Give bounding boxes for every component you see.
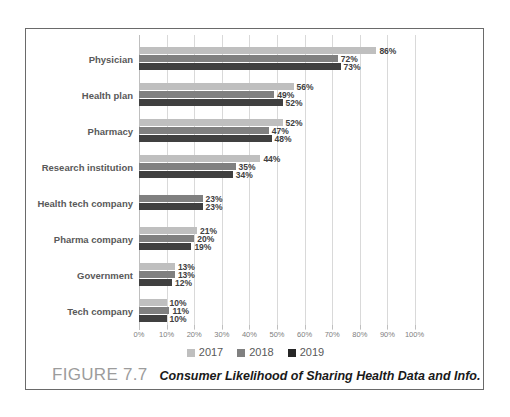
x-tick-label-0: 0% — [134, 330, 145, 339]
bar-row-tech-company-2019: 10% — [139, 315, 415, 322]
category-label-pharma-company: Pharma company — [54, 235, 133, 245]
bar-group-health-plan: 56% 49% 52% — [139, 83, 415, 107]
bar-physician-2018 — [139, 55, 338, 62]
bar-pharma-2019 — [139, 243, 191, 250]
legend-label-2019: 2019 — [300, 347, 324, 358]
bar-tech-company-2017 — [139, 299, 167, 306]
figure-number: FIGURE 7.7 — [52, 365, 148, 385]
bar-health-plan-2018 — [139, 91, 274, 98]
bar-group-pharma-company: 21% 20% 19% — [139, 227, 415, 251]
bar-row-pharma-2018: 20% — [139, 235, 415, 242]
bar-row-health-plan-2018: 49% — [139, 91, 415, 98]
bar-row-health-tech-2018: 23% — [139, 195, 415, 202]
bar-pharmacy-2019 — [139, 135, 272, 142]
bar-row-research-2018: 35% — [139, 163, 415, 170]
x-tick-label-50: 50% — [269, 330, 284, 339]
bar-row-pharma-2019: 19% — [139, 243, 415, 250]
bar-row-health-tech-2019: 23% — [139, 203, 415, 210]
category-label-physician: Physician — [89, 55, 133, 65]
category-label-government: Government — [77, 271, 133, 281]
category-label-research-institution: Research institution — [42, 163, 133, 173]
x-tick-label-60: 60% — [297, 330, 312, 339]
legend-label-2017: 2017 — [199, 347, 223, 358]
bar-group-pharmacy: 52% 47% 48% — [139, 119, 415, 143]
bar-tech-company-2018 — [139, 307, 169, 314]
x-tick-label-100: 100% — [405, 330, 424, 339]
bar-value-health-plan-2019: 52% — [283, 98, 303, 107]
bar-value-physician-2019: 73% — [341, 62, 361, 71]
x-tick-label-70: 70% — [325, 330, 340, 339]
figure-frame: Physician Health plan Pharmacy Research … — [25, 28, 484, 390]
legend-item-2017[interactable]: 2017 — [187, 347, 223, 358]
x-tick-label-20: 20% — [187, 330, 202, 339]
x-tick-label-40: 40% — [242, 330, 257, 339]
bar-health-tech-2018 — [139, 195, 203, 202]
bar-row-pharma-2017: 21% — [139, 227, 415, 234]
category-label-tech-company: Tech company — [67, 307, 133, 317]
bar-value-health-plan-2017: 56% — [294, 82, 314, 91]
chart-plot-area: Physician Health plan Pharmacy Research … — [26, 35, 485, 335]
category-label-health-plan: Health plan — [82, 91, 133, 101]
bar-value-pharma-2019: 19% — [191, 242, 211, 251]
legend-swatch-icon-2018 — [237, 349, 245, 357]
bar-group-research-institution: 44% 35% 34% — [139, 155, 415, 179]
bar-value-tech-company-2019: 10% — [167, 314, 187, 323]
bar-row-physician-2017: 86% — [139, 47, 415, 54]
x-tick-label-30: 30% — [214, 330, 229, 339]
bar-pharmacy-2017 — [139, 119, 283, 126]
bar-group-tech-company: 10% 11% 10% — [139, 299, 415, 323]
bar-value-government-2019: 12% — [172, 278, 192, 287]
bar-research-2018 — [139, 163, 236, 170]
bar-government-2017 — [139, 263, 175, 270]
x-tick-label-90: 90% — [380, 330, 395, 339]
category-label-health-tech-company: Health tech company — [37, 199, 133, 209]
category-axis-labels: Physician Health plan Pharmacy Research … — [26, 35, 139, 330]
bar-health-plan-2019 — [139, 99, 283, 106]
legend-label-2018: 2018 — [249, 347, 273, 358]
bar-health-plan-2017 — [139, 83, 294, 90]
x-tick-label-10: 10% — [159, 330, 174, 339]
category-label-pharmacy: Pharmacy — [88, 127, 133, 137]
bar-tech-company-2019 — [139, 315, 167, 322]
bar-research-2019 — [139, 171, 233, 178]
bar-pharmacy-2018 — [139, 127, 269, 134]
chart-legend: 2017 2018 2019 — [26, 347, 485, 358]
legend-swatch-icon-2019 — [288, 349, 296, 357]
legend-swatch-icon-2017 — [187, 349, 195, 357]
bar-row-physician-2019: 73% — [139, 63, 415, 70]
x-tick-label-80: 80% — [352, 330, 367, 339]
bar-value-health-tech-2019: 23% — [203, 202, 223, 211]
bar-pharma-2018 — [139, 235, 194, 242]
legend-item-2019[interactable]: 2019 — [288, 347, 324, 358]
figure-title: Consumer Likelihood of Sharing Health Da… — [160, 369, 481, 383]
bar-government-2018 — [139, 271, 175, 278]
bar-row-research-2017: 44% — [139, 155, 415, 162]
bar-value-pharmacy-2019: 48% — [272, 134, 292, 143]
bar-physician-2019 — [139, 63, 341, 70]
bar-row-health-plan-2019: 52% — [139, 99, 415, 106]
bar-row-pharmacy-2019: 48% — [139, 135, 415, 142]
bar-group-government: 13% 13% 12% — [139, 263, 415, 287]
bar-row-research-2019: 34% — [139, 171, 415, 178]
bar-value-research-2017: 44% — [260, 154, 280, 163]
bar-health-tech-2019 — [139, 203, 203, 210]
bar-row-physician-2018: 72% — [139, 55, 415, 62]
bar-government-2019 — [139, 279, 172, 286]
bar-value-physician-2017: 86% — [376, 46, 396, 55]
bar-group-health-tech-company: 23% 23% — [139, 195, 415, 211]
bar-pharma-2017 — [139, 227, 197, 234]
figure-caption: FIGURE 7.7 Consumer Likelihood of Sharin… — [26, 365, 485, 385]
bar-group-physician: 86% 72% 73% — [139, 47, 415, 71]
legend-item-2018[interactable]: 2018 — [237, 347, 273, 358]
bar-value-research-2019: 34% — [233, 170, 253, 179]
bar-row-government-2019: 12% — [139, 279, 415, 286]
bars-region: 86% 72% 73% 56% 49% — [139, 35, 415, 330]
value-axis: 0% 10% 20% 30% 40% 50% 60% 70% 80% 90% 1… — [139, 325, 415, 345]
